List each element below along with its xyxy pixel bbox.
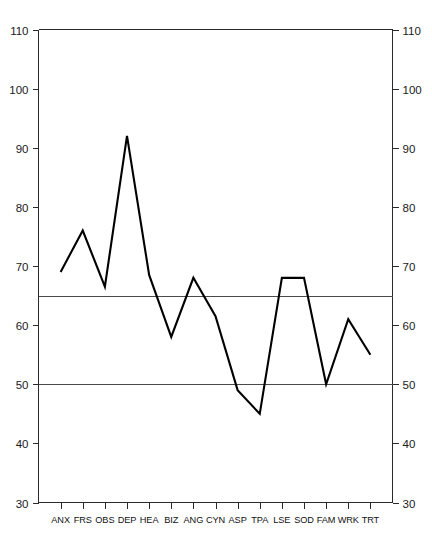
x-category-label: ANX <box>51 515 70 525</box>
x-category-label: CYN <box>206 515 225 525</box>
y-tick-label-left: 100 <box>9 84 28 96</box>
y-tick-label-right: 30 <box>403 498 416 510</box>
line-chart: 30405060708090100110 3040506070809010011… <box>0 0 432 547</box>
x-category-label: DEP <box>118 515 137 525</box>
y-tick-label-left: 40 <box>16 438 29 450</box>
y-tick-label-left: 70 <box>16 261 29 273</box>
x-category-label: TRT <box>362 515 380 525</box>
y-tick-label-left: 60 <box>16 320 29 332</box>
x-category-label: LSE <box>273 515 290 525</box>
x-category-label: BIZ <box>164 515 178 525</box>
x-category-label: ANG <box>184 515 204 525</box>
y-tick-label-left: 30 <box>16 498 29 510</box>
chart-container: 30405060708090100110 3040506070809010011… <box>0 0 432 547</box>
chart-background <box>0 0 432 547</box>
x-category-label: SOD <box>294 515 314 525</box>
y-tick-label-left: 50 <box>16 379 29 391</box>
y-tick-label-left: 90 <box>16 143 29 155</box>
y-tick-label-right: 50 <box>403 379 416 391</box>
x-category-label: HEA <box>140 515 160 525</box>
y-tick-label-right: 60 <box>403 320 416 332</box>
y-tick-label-right: 110 <box>403 25 421 37</box>
y-tick-label-left: 80 <box>16 202 29 214</box>
y-tick-label-right: 70 <box>403 261 416 273</box>
y-tick-label-right: 80 <box>403 202 416 214</box>
x-category-label: FAM <box>317 515 336 525</box>
y-tick-label-left: 110 <box>10 25 28 37</box>
x-category-label: OBS <box>95 515 114 525</box>
x-category-label: WRK <box>338 515 360 525</box>
x-axis-category-labels: ANXFRSOBSDEPHEABIZANGCYNASPTPALSESODFAMW… <box>51 515 379 525</box>
x-category-label: FRS <box>74 515 92 525</box>
y-tick-label-right: 90 <box>403 143 416 155</box>
y-tick-label-right: 40 <box>403 438 416 450</box>
x-category-label: TPA <box>251 515 269 525</box>
x-category-label: ASP <box>229 515 247 525</box>
y-tick-label-right: 100 <box>403 84 422 96</box>
